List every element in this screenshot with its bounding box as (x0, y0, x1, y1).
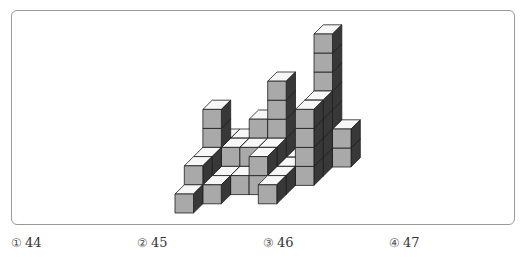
choice-number-icon: ① (11, 236, 22, 250)
choice-2[interactable]: ②45 (137, 235, 168, 250)
choice-value: 45 (151, 235, 168, 250)
cube-structure-figure (0, 0, 528, 257)
choice-3[interactable]: ③46 (263, 235, 294, 250)
choice-value: 44 (25, 235, 42, 250)
choice-number-icon: ② (137, 236, 148, 250)
unit-cube (175, 185, 203, 213)
choice-4[interactable]: ④47 (389, 235, 420, 250)
choice-number-icon: ④ (389, 236, 400, 250)
choice-value: 47 (403, 235, 420, 250)
answer-choices: ①44 ②45 ③46 ④47 (11, 235, 528, 255)
choice-number-icon: ③ (263, 236, 274, 250)
choice-1[interactable]: ①44 (11, 235, 42, 250)
choice-value: 46 (277, 235, 294, 250)
